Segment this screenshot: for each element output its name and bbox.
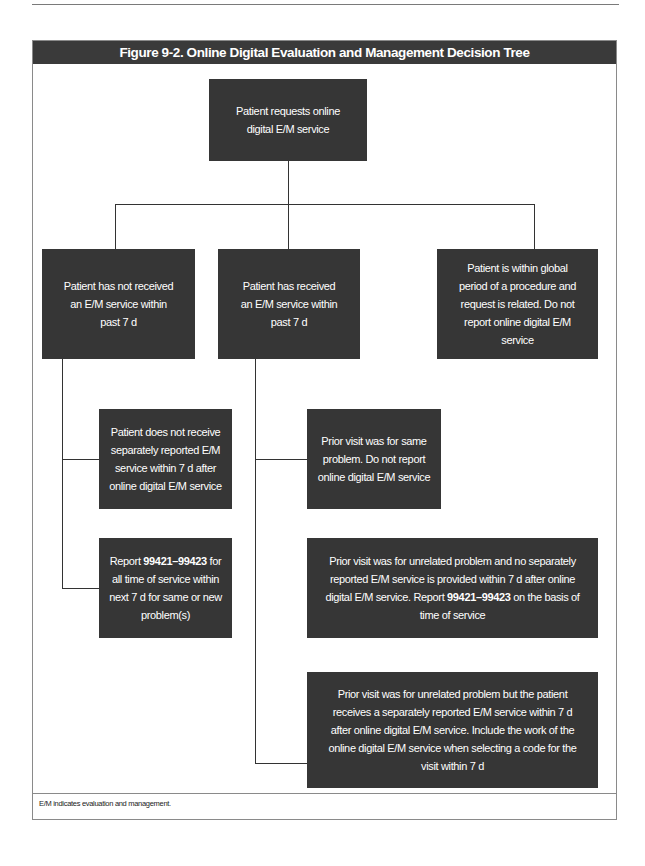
cpt-code-range: 99421–99423 (143, 555, 206, 567)
node-no-separate-em: Patient does not receive separately repo… (99, 409, 232, 509)
node-same-problem: Prior visit was for same problem. Do not… (307, 409, 441, 509)
node-received: Patient has received an E/M service with… (218, 249, 360, 359)
connector-left-vertical (62, 359, 63, 589)
connector-to-global (534, 204, 535, 249)
connector-left-1 (62, 459, 99, 460)
connector-mid-3 (255, 763, 307, 764)
node-not-received: Patient has not received an E/M service … (42, 249, 195, 359)
node-global-period: Patient is within global period of a pro… (437, 249, 598, 359)
node-report-not-received: Report 99421–99423 for all time of servi… (99, 538, 232, 638)
node-unrelated-no-separate: Prior visit was for unrelated problem an… (307, 538, 598, 638)
connector-left-2 (62, 588, 99, 589)
connector-mid-vertical (255, 359, 256, 763)
connector-branch-horizontal (115, 204, 534, 205)
page-top-rule (32, 4, 619, 5)
footnote-divider (33, 793, 616, 794)
connector-root-down (288, 161, 289, 204)
node-unrelated-with-separate: Prior visit was for unrelated problem bu… (307, 672, 598, 788)
node-root: Patient requests online digital E/M serv… (209, 79, 367, 161)
figure-footnote: E/M indicates evaluation and management. (39, 799, 171, 808)
figure-title: Figure 9-2. Online Digital Evaluation an… (33, 41, 616, 64)
connector-to-not-received (115, 204, 116, 249)
connector-to-received (288, 204, 289, 249)
decision-tree-figure: Figure 9-2. Online Digital Evaluation an… (32, 40, 617, 820)
cpt-code-range: 99421–99423 (447, 591, 510, 603)
connector-mid-1 (255, 459, 307, 460)
